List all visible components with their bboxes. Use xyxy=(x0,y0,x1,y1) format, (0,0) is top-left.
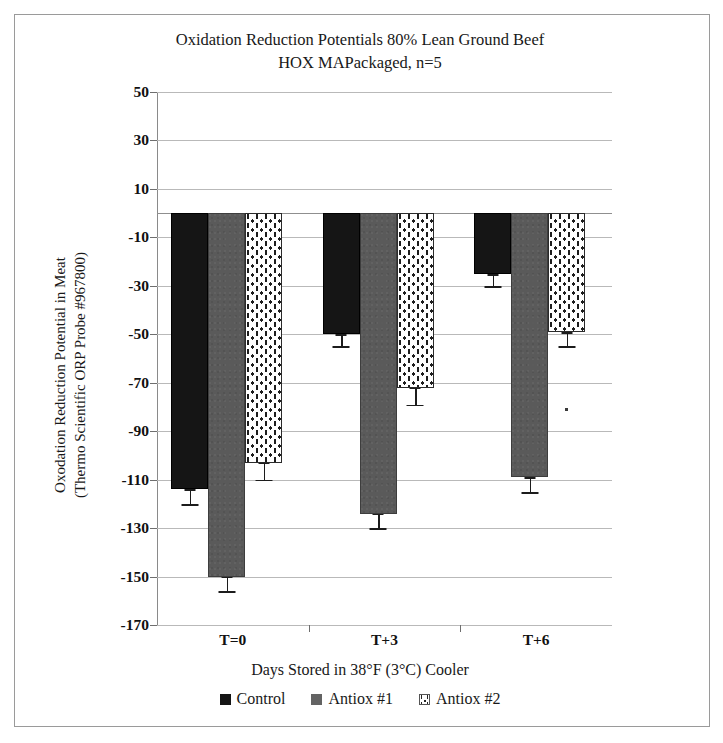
y-axis-title: Oxodation Reduction Potential in Meat (T… xyxy=(50,165,90,585)
error-bar-cap xyxy=(484,286,501,288)
y-axis-tick xyxy=(150,189,157,190)
legend-item-antiox2: Antiox #2 xyxy=(419,690,500,708)
gridline xyxy=(157,92,612,93)
y-axis-tick-label: -110 xyxy=(87,471,149,489)
legend-swatch-icon xyxy=(311,694,322,705)
bar-antiox2-T3 xyxy=(397,213,434,387)
y-axis-tick xyxy=(150,286,157,287)
scan-artifact xyxy=(565,408,568,411)
y-axis-tick xyxy=(150,625,157,626)
bar-antiox2-T0 xyxy=(245,213,282,463)
gridline xyxy=(157,140,612,141)
error-bar xyxy=(190,489,192,504)
chart-title-line-1: Oxidation Reduction Potentials 80% Lean … xyxy=(176,30,544,49)
legend-label: Antiox #1 xyxy=(328,690,392,708)
error-bar xyxy=(378,514,380,529)
y-axis-tick-label: 10 xyxy=(87,180,149,198)
error-bar-cap xyxy=(410,388,421,390)
error-bar-cap xyxy=(524,477,535,479)
gridline xyxy=(157,189,612,190)
legend-item-antiox1: Antiox #1 xyxy=(311,690,392,708)
error-bar-cap xyxy=(181,504,198,506)
error-bar-cap xyxy=(336,334,347,336)
error-bar-cap xyxy=(221,577,232,579)
error-bar xyxy=(415,388,417,405)
chart-title-line-2: HOX MAPackaged, n=5 xyxy=(60,51,660,74)
y-axis-tick-label: -90 xyxy=(87,422,149,440)
bar-antiox2-T6 xyxy=(548,213,585,332)
y-axis-tick-label: -130 xyxy=(87,519,149,537)
error-bar-cap xyxy=(258,463,269,465)
error-bar-cap xyxy=(333,346,350,348)
error-bar xyxy=(493,274,495,286)
x-axis-tick xyxy=(309,625,310,632)
y-axis-tick xyxy=(150,334,157,335)
y-axis-tick-label: -70 xyxy=(87,374,149,392)
bar-control-T0 xyxy=(171,213,208,489)
bar-antiox1-T3 xyxy=(360,213,397,513)
bar-control-T6 xyxy=(474,213,511,274)
error-bar-cap xyxy=(558,346,575,348)
bar-antiox1-T0 xyxy=(208,213,245,576)
chart-title: Oxidation Reduction Potentials 80% Lean … xyxy=(60,28,660,74)
y-axis-tick xyxy=(150,431,157,432)
y-axis-tick xyxy=(150,237,157,238)
chart-figure: Oxidation Reduction Potentials 80% Lean … xyxy=(0,0,723,743)
error-bar-cap xyxy=(218,591,235,593)
x-axis-tick-label: T+6 xyxy=(476,631,596,649)
legend-label: Control xyxy=(237,690,286,708)
y-axis-tick-label: -30 xyxy=(87,277,149,295)
error-bar xyxy=(227,577,229,592)
error-bar-cap xyxy=(521,492,538,494)
x-axis-tick-label: T=0 xyxy=(173,631,293,649)
y-axis-tick-label: 50 xyxy=(87,83,149,101)
y-axis-tick xyxy=(150,577,157,578)
error-bar-cap xyxy=(370,528,387,530)
error-bar-cap xyxy=(407,405,424,407)
x-axis-tick-labels: T=0T+3T+6 xyxy=(157,631,612,655)
error-bar-cap xyxy=(561,332,572,334)
y-axis-tick xyxy=(150,383,157,384)
y-axis-tick-label: -150 xyxy=(87,568,149,586)
y-axis-tick xyxy=(150,480,157,481)
y-axis-tick-label: 30 xyxy=(87,131,149,149)
y-axis-tick-label: -170 xyxy=(87,616,149,634)
y-axis-tick xyxy=(150,140,157,141)
chart-legend: ControlAntiox #1Antiox #2 xyxy=(60,690,660,708)
legend-swatch-icon xyxy=(419,694,430,705)
error-bar-cap xyxy=(184,489,195,491)
y-axis-tick xyxy=(150,528,157,529)
x-axis-tick xyxy=(460,625,461,632)
legend-label: Antiox #2 xyxy=(436,690,500,708)
bar-antiox1-T6 xyxy=(511,213,548,477)
error-bar xyxy=(530,477,532,492)
error-bar xyxy=(264,463,266,480)
y-axis-tick-labels: 503010-10-30-50-70-90-110-130-150-170 xyxy=(85,92,149,625)
error-bar-cap xyxy=(255,480,272,482)
x-axis-tick-label: T+3 xyxy=(325,631,445,649)
plot-area xyxy=(157,92,612,625)
y-axis-tick-label: -10 xyxy=(87,228,149,246)
legend-swatch-icon xyxy=(220,694,231,705)
error-bar-cap xyxy=(487,274,498,276)
legend-item-control: Control xyxy=(220,690,286,708)
y-axis-tick-label: -50 xyxy=(87,325,149,343)
bar-control-T3 xyxy=(323,213,360,334)
gridline xyxy=(157,625,612,626)
x-axis-title: Days Stored in 38°F (3°C) Cooler xyxy=(60,661,660,679)
error-bar-cap xyxy=(373,514,384,516)
error-bar xyxy=(567,332,569,347)
y-axis-tick xyxy=(150,92,157,93)
y-axis-title-line-1: Oxodation Reduction Potential in Meat xyxy=(52,257,68,493)
error-bar xyxy=(341,334,343,346)
